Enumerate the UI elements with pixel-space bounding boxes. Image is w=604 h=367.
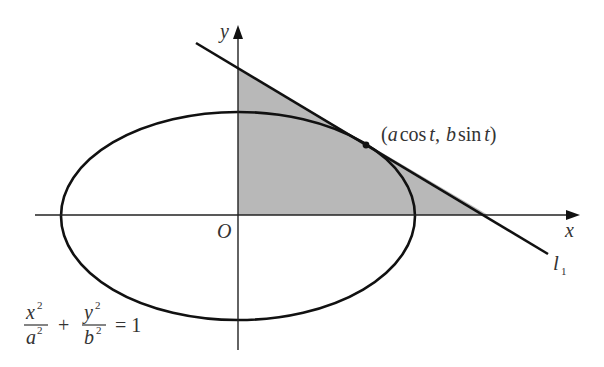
x-axis-label: x	[564, 219, 574, 241]
svg-text:2: 2	[95, 299, 101, 311]
svg-text:y: y	[82, 301, 93, 324]
ellipse-equation: x 2 a 2 + y 2 b 2 = 1	[24, 299, 141, 348]
origin-label: O	[217, 220, 231, 242]
line-l1-label: l	[553, 251, 559, 275]
tangent-point	[363, 142, 370, 149]
line-l1-subscript: 1	[561, 265, 567, 277]
ellipse-tangent-diagram: y x O (acost,bsint) l 1 x 2 a 2 + y 2 b …	[0, 0, 604, 367]
svg-text:a: a	[26, 326, 36, 348]
svg-text:2: 2	[37, 324, 43, 336]
y-axis-arrow-icon	[233, 25, 243, 39]
svg-text:= 1: = 1	[115, 314, 141, 336]
tangent-point-label: (acost,bsint)	[381, 123, 496, 146]
svg-text:2: 2	[37, 299, 43, 311]
svg-text:+: +	[58, 314, 69, 336]
svg-text:x: x	[25, 301, 35, 323]
svg-text:2: 2	[96, 324, 102, 336]
y-axis-label: y	[218, 20, 229, 43]
svg-text:b: b	[84, 326, 94, 348]
